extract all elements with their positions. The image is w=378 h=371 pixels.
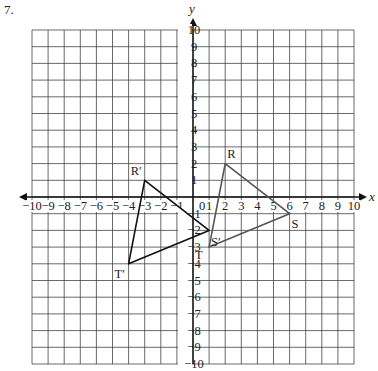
y-tick-label: 9 — [191, 40, 197, 54]
x-tick-label: −6 — [90, 199, 103, 213]
x-tick-label: −7 — [74, 199, 87, 213]
vertex-label: S — [292, 217, 299, 231]
x-tick-label: 6 — [286, 199, 292, 213]
y-tick-label: 6 — [191, 90, 197, 104]
y-tick-label: 10 — [188, 23, 201, 37]
y-tick-label: 2 — [191, 157, 197, 171]
y-tick-label: −7 — [187, 307, 200, 321]
vertex-label: T — [195, 248, 203, 262]
x-tick-label: 1 — [206, 199, 212, 213]
y-tick-label: −6 — [187, 290, 200, 304]
y-tick-label: −8 — [187, 324, 200, 338]
x-tick-label: −10 — [22, 199, 42, 213]
x-tick-label: 8 — [319, 199, 325, 213]
vertex-label: S′ — [211, 235, 221, 249]
y-tick-label: −5 — [187, 274, 200, 288]
x-tick-label: −8 — [58, 199, 71, 213]
y-tick-label: 3 — [191, 140, 197, 154]
origin-label: 0 — [199, 199, 205, 213]
y-tick-label: −9 — [187, 340, 200, 354]
x-tick-label: 10 — [348, 199, 361, 213]
y-tick-label: 1 — [191, 173, 197, 187]
y-tick-label: 7 — [191, 73, 197, 87]
vertex-label: R — [227, 147, 236, 161]
vertex-label: R′ — [131, 164, 142, 178]
y-tick-label: −10 — [184, 357, 204, 371]
x-tick-label: −5 — [106, 199, 119, 213]
x-tick-label: −4 — [122, 199, 136, 213]
x-axis-label: x — [368, 189, 375, 204]
x-tick-label: 3 — [238, 199, 244, 213]
x-tick-label: −9 — [41, 199, 54, 213]
x-tick-label: 4 — [254, 199, 261, 213]
y-axis-label: y — [187, 1, 195, 16]
x-tick-label: 2 — [222, 199, 228, 213]
coordinate-plane: xy −10−9−8−7−6−5−4−3−2−11234567891010987… — [0, 0, 378, 371]
x-tick-label: 7 — [303, 199, 309, 213]
x-tick-label: −2 — [154, 199, 167, 213]
y-tick-label: 5 — [191, 107, 197, 121]
y-tick-label: 4 — [191, 123, 198, 137]
vertex-label: T′ — [115, 267, 126, 281]
x-tick-label: 9 — [335, 199, 341, 213]
y-tick-label: 8 — [191, 56, 197, 70]
